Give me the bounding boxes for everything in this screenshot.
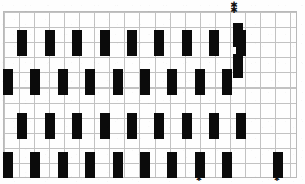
asterisk-bottom-1: ✱ — [195, 176, 203, 183]
mark-row-3 — [236, 113, 246, 139]
mark-row-4 — [113, 152, 123, 178]
mark-row-2 — [167, 69, 177, 95]
mark-row-1 — [100, 30, 110, 56]
mark-row-2 — [85, 69, 95, 95]
mark-tall-mark-upper — [233, 23, 243, 47]
mark-row-4 — [140, 152, 150, 178]
mark-row-4 — [85, 152, 95, 178]
mark-row-4 — [3, 152, 13, 178]
mark-row-4 — [222, 152, 232, 178]
mark-row-2 — [58, 69, 68, 95]
mark-row-1 — [45, 30, 55, 56]
mark-row-2 — [140, 69, 150, 95]
mark-row-1 — [127, 30, 137, 56]
asterisk-top-2: ✱ — [230, 6, 238, 15]
mark-row-3 — [154, 113, 164, 139]
mark-row-2 — [3, 69, 13, 95]
mark-row-4 — [167, 152, 177, 178]
mark-row-3 — [45, 113, 55, 139]
mark-row-2 — [222, 69, 232, 95]
mark-row-3 — [182, 113, 192, 139]
figure-canvas: ✱✱✱✱ — [0, 0, 305, 184]
mark-row-1 — [154, 30, 164, 56]
mark-row-4 — [58, 152, 68, 178]
mark-row-3 — [72, 113, 82, 139]
asterisk-bottom-2: ✱ — [273, 176, 281, 183]
mark-row-3 — [17, 113, 27, 139]
mark-row-3 — [209, 113, 219, 139]
mark-row-1 — [209, 30, 219, 56]
mark-row-4 — [30, 152, 40, 178]
mark-row-1 — [182, 30, 192, 56]
mark-row-2 — [113, 69, 123, 95]
mark-row-3 — [127, 113, 137, 139]
mark-tall-mark-lower — [233, 54, 243, 78]
mark-row-1 — [72, 30, 82, 56]
mark-row-3 — [100, 113, 110, 139]
mark-row-2 — [30, 69, 40, 95]
mark-row-2 — [195, 69, 205, 95]
mark-row-1 — [17, 30, 27, 56]
